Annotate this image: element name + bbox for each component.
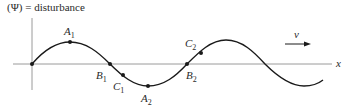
velocity-label: v: [294, 28, 299, 40]
point-label-c2: C2: [185, 37, 196, 52]
point-label-b2: B2: [186, 69, 197, 84]
y-axis-label: (Ψ) = disturbance: [7, 1, 85, 14]
point-a2: [146, 84, 150, 88]
x-axis-label: x: [335, 57, 341, 69]
point-label-a1: A1: [63, 25, 75, 40]
point-label-c1: C1: [113, 80, 124, 95]
arrow-head-icon: [304, 42, 311, 47]
point-label-a2: A2: [140, 92, 152, 107]
point-b2: [185, 62, 189, 66]
point-a1: [68, 40, 72, 44]
point-b1: [108, 62, 112, 66]
point-label-b1: B1: [96, 69, 107, 84]
wave-curve: [32, 40, 323, 86]
point-c2: [199, 51, 203, 55]
point-c1: [121, 73, 125, 77]
labeled-points: A1B1C1A2B2C2: [63, 25, 203, 107]
wave-diagram: A1B1C1A2B2C2 (Ψ) = disturbance x v: [0, 0, 353, 108]
origin-point: [30, 62, 34, 66]
